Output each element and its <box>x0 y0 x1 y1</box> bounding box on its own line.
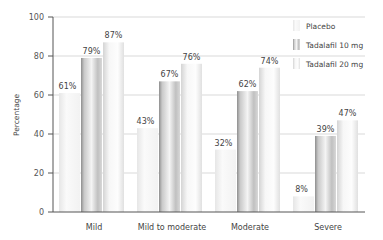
y-tick-label: 20 <box>34 169 44 178</box>
bar-tadalafil-20-mg <box>259 68 280 212</box>
data-label: 76% <box>183 53 201 62</box>
legend-label: Placebo <box>306 22 336 31</box>
data-label: 79% <box>83 47 101 56</box>
y-tick-label: 100 <box>29 13 44 22</box>
y-tick-label: 80 <box>34 52 44 61</box>
y-tick-label: 60 <box>34 91 44 100</box>
data-label: 61% <box>59 82 77 91</box>
data-label: 62% <box>239 80 257 89</box>
bar-tadalafil-10-mg <box>315 136 336 212</box>
y-tick-label: 40 <box>34 130 44 139</box>
legend: PlaceboTadalafil 10 mgTadalafil 20 mg <box>293 20 363 69</box>
y-axis-title: Percentage <box>12 94 21 137</box>
legend-swatch <box>293 58 300 69</box>
bar-tadalafil-10-mg <box>159 81 180 212</box>
data-label: 32% <box>215 139 233 148</box>
bar-placebo <box>293 196 314 212</box>
data-label: 39% <box>317 125 335 134</box>
legend-swatch <box>293 20 300 31</box>
legend-label: Tadalafil 20 mg <box>305 60 363 69</box>
bar-tadalafil-10-mg <box>237 91 258 212</box>
x-axis-categories: MildMild to moderateModerateSevere <box>86 223 342 232</box>
category-label: Moderate <box>231 223 269 232</box>
bar-placebo <box>215 150 236 212</box>
legend-label: Tadalafil 10 mg <box>305 41 363 50</box>
bar-tadalafil-10-mg <box>81 58 102 212</box>
legend-swatch <box>293 39 300 50</box>
bar-tadalafil-20-mg <box>103 42 124 212</box>
category-label: Mild <box>86 223 102 232</box>
y-tick-label: 0 <box>39 208 44 217</box>
bar-tadalafil-20-mg <box>337 120 358 212</box>
bar-tadalafil-20-mg <box>181 64 202 212</box>
category-label: Mild to moderate <box>138 223 207 232</box>
data-label: 43% <box>137 117 155 126</box>
category-label: Severe <box>314 223 342 232</box>
data-label: 74% <box>261 57 279 66</box>
data-label: 8% <box>295 185 308 194</box>
bar-placebo <box>137 128 158 212</box>
data-label: 47% <box>339 109 357 118</box>
y-axis-ticks: 020406080100 <box>29 13 53 217</box>
data-label: 87% <box>105 31 123 40</box>
bar-placebo <box>59 93 80 212</box>
data-label: 67% <box>161 70 179 79</box>
bar-chart: 61%79%87%43%67%76%32%62%74%8%39%47% 0204… <box>0 0 383 240</box>
